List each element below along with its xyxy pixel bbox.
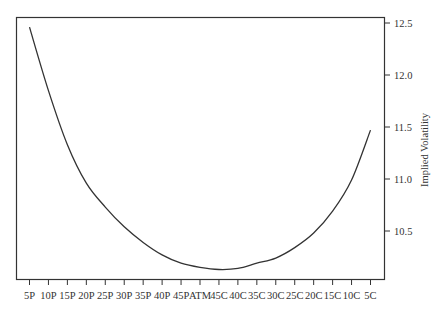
x-tick-label: 15P [59, 290, 76, 301]
x-tick-label: 15C [324, 290, 342, 301]
x-tick-label: 35C [248, 290, 266, 301]
implied-volatility-curve [30, 27, 371, 269]
x-axis-ticks: 5P10P15P20P25P30P35P40P45PATM45C40C35C30… [24, 280, 377, 301]
y-tick-label: 11.5 [394, 122, 412, 133]
y-tick-label: 12.5 [394, 18, 412, 29]
x-tick-label: 30C [267, 290, 285, 301]
volatility-smile-chart: 5P10P15P20P25P30P35P40P45PATM45C40C35C30… [0, 0, 443, 309]
x-tick-label: 5C [364, 290, 376, 301]
x-tick-label: 45C [210, 290, 228, 301]
y-tick-label: 12.0 [394, 70, 412, 81]
y-axis-label: Implied Volatility [419, 112, 430, 187]
x-tick-label: 25P [97, 290, 114, 301]
x-tick-label: 40P [154, 290, 171, 301]
plot-frame [17, 18, 385, 280]
x-tick-label: 35P [135, 290, 152, 301]
x-tick-label: 30P [116, 290, 133, 301]
y-tick-label: 11.0 [394, 174, 412, 185]
x-tick-label: 20C [305, 290, 323, 301]
x-tick-label: 10C [343, 290, 361, 301]
x-tick-label: ATM [189, 290, 212, 301]
y-axis-ticks: 10.511.011.512.012.5 [385, 18, 412, 237]
y-tick-label: 10.5 [394, 226, 412, 237]
x-tick-label: 5P [24, 290, 35, 301]
x-tick-label: 20P [78, 290, 95, 301]
x-tick-label: 40C [229, 290, 247, 301]
x-tick-label: 25C [286, 290, 304, 301]
x-tick-label: 10P [40, 290, 57, 301]
x-tick-label: 45P [173, 290, 190, 301]
